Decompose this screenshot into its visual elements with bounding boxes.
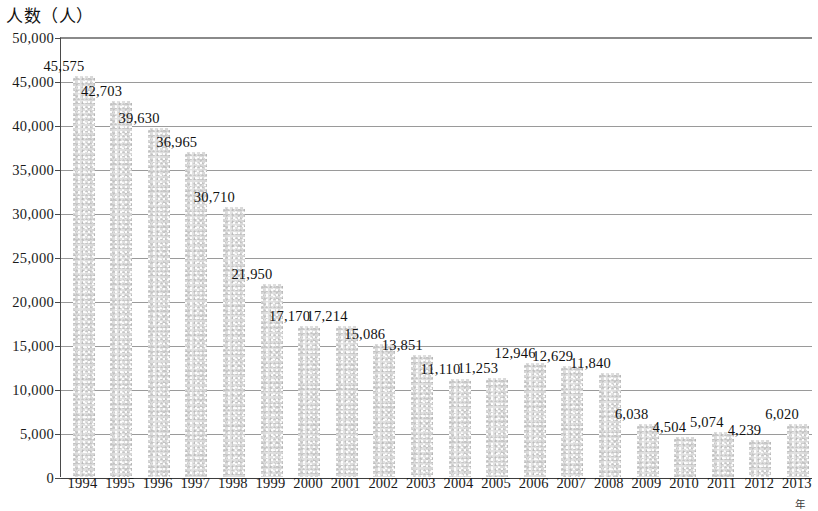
y-tick-mark — [55, 346, 61, 347]
bar-value-label: 15,086 — [344, 327, 385, 342]
bar — [674, 437, 696, 477]
gridline — [61, 346, 812, 347]
x-tick-label: 2000 — [293, 475, 323, 492]
gridline — [61, 258, 812, 259]
y-tick-mark — [55, 302, 61, 303]
x-tick-label: 2004 — [444, 475, 474, 492]
gridline — [61, 302, 812, 303]
bar-value-label: 12,629 — [532, 349, 573, 364]
gridline — [61, 126, 812, 127]
y-tick-label: 40,000 — [12, 118, 54, 135]
x-tick-label: 2011 — [707, 475, 736, 492]
plot-area: 05,00010,00015,00020,00025,00030,00035,0… — [60, 37, 812, 477]
bar — [524, 363, 546, 477]
y-tick-mark — [55, 126, 61, 127]
bar — [561, 366, 583, 477]
y-tick-label: 30,000 — [12, 206, 54, 223]
y-tick-mark — [55, 38, 61, 39]
bar — [148, 128, 170, 477]
bar-value-label: 39,630 — [119, 111, 160, 126]
y-tick-label: 20,000 — [12, 294, 54, 311]
bar-value-label: 30,710 — [194, 190, 235, 205]
bar-value-label: 13,851 — [382, 338, 423, 353]
bar-value-label: 17,214 — [307, 309, 348, 324]
x-tick-label: 1996 — [143, 475, 173, 492]
gridline — [61, 390, 812, 391]
gridline — [61, 38, 812, 39]
bar — [110, 101, 132, 477]
bar-value-label: 11,840 — [570, 356, 611, 371]
bar — [298, 326, 320, 477]
gridline — [61, 434, 812, 435]
y-axis-title: 人数（人） — [6, 2, 94, 27]
bar — [486, 378, 508, 477]
bar — [749, 440, 771, 477]
y-tick-label: 0 — [46, 470, 54, 487]
y-tick-mark — [55, 434, 61, 435]
bar-value-label: 5,074 — [690, 415, 724, 430]
bar-value-label: 45,575 — [43, 59, 84, 74]
x-axis-unit-label: 年 — [795, 496, 805, 511]
x-tick-label: 1995 — [105, 475, 135, 492]
y-tick-mark — [55, 170, 61, 171]
bar-value-label: 4,504 — [652, 420, 686, 435]
y-tick-label: 35,000 — [12, 162, 54, 179]
x-tick-label: 1998 — [218, 475, 248, 492]
x-tick-label: 2008 — [594, 475, 624, 492]
bar-value-label: 36,965 — [156, 135, 197, 150]
bar-value-label: 11,253 — [458, 361, 499, 376]
bar-value-label: 11,110 — [421, 362, 461, 377]
x-tick-label: 2001 — [331, 475, 361, 492]
y-tick-label: 50,000 — [12, 30, 54, 47]
y-tick-mark — [55, 258, 61, 259]
gridline — [61, 214, 812, 215]
gridline — [61, 478, 812, 479]
bar — [449, 379, 471, 477]
y-tick-label: 15,000 — [12, 338, 54, 355]
bar — [336, 326, 358, 477]
x-tick-label: 2005 — [481, 475, 511, 492]
plot-inner: 05,00010,00015,00020,00025,00030,00035,0… — [61, 38, 812, 477]
bar-value-label: 4,239 — [728, 423, 762, 438]
x-tick-label: 2006 — [519, 475, 549, 492]
y-tick-label: 25,000 — [12, 250, 54, 267]
gridline — [61, 82, 812, 83]
bar — [223, 207, 245, 477]
x-tick-label: 2007 — [556, 475, 586, 492]
bar-value-label: 17,170 — [269, 309, 310, 324]
x-tick-label: 2012 — [744, 475, 774, 492]
y-tick-mark — [55, 390, 61, 391]
y-tick-label: 10,000 — [12, 382, 54, 399]
bar-value-label: 12,946 — [495, 346, 536, 361]
bar — [373, 344, 395, 477]
bar-value-label: 6,038 — [615, 407, 649, 422]
bar-value-label: 6,020 — [765, 407, 799, 422]
x-tick-label: 1997 — [180, 475, 210, 492]
bar-value-label: 42,703 — [81, 84, 122, 99]
x-tick-label: 2013 — [782, 475, 812, 492]
x-tick-label: 2010 — [669, 475, 699, 492]
gridline — [61, 170, 812, 171]
bar-value-label: 21,950 — [231, 267, 272, 282]
y-tick-label: 5,000 — [20, 426, 54, 443]
y-tick-mark — [55, 82, 61, 83]
y-tick-mark — [55, 214, 61, 215]
y-tick-label: 45,000 — [12, 74, 54, 91]
x-tick-label: 2003 — [406, 475, 436, 492]
bar — [73, 76, 95, 477]
x-tick-label: 1994 — [68, 475, 98, 492]
y-tick-mark — [55, 478, 61, 479]
x-tick-label: 1999 — [256, 475, 286, 492]
x-tick-label: 2002 — [368, 475, 398, 492]
bar — [599, 373, 621, 477]
bar — [712, 432, 734, 477]
x-tick-label: 2009 — [632, 475, 662, 492]
bar — [787, 424, 809, 477]
